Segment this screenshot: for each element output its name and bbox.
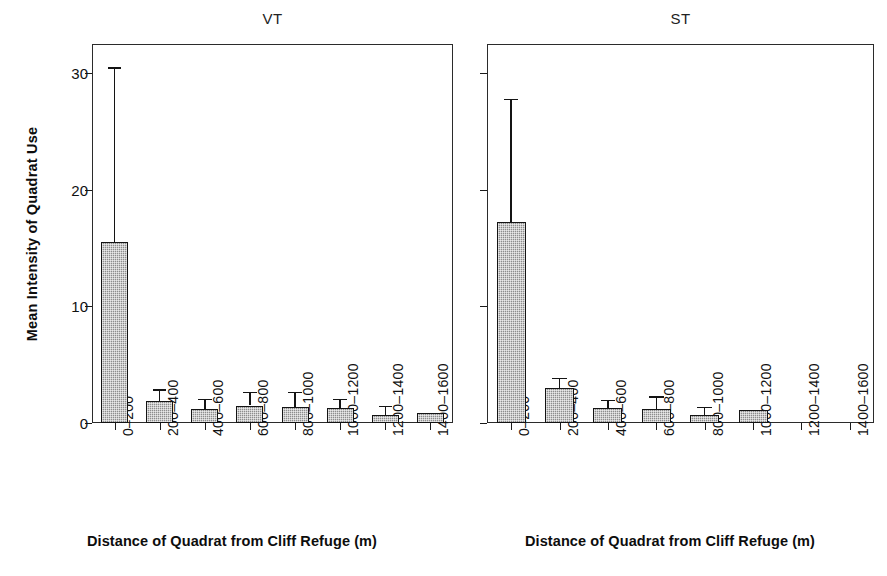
bar-vt-3 <box>236 406 263 423</box>
error-bar-vt-6 <box>379 406 393 415</box>
x-tick-vt-1 <box>160 423 161 430</box>
y-tick-label-30: 30 <box>71 65 88 82</box>
x-tick-label-vt-2: 400–600 <box>210 379 226 436</box>
error-bar-st-2 <box>601 400 616 408</box>
bar-st-2 <box>593 408 622 423</box>
x-tick-label-vt-7: 1400–1600 <box>435 363 451 436</box>
error-bar-vt-0 <box>108 67 122 242</box>
error-bar-vt-2 <box>198 399 212 409</box>
x-tick-label-vt-6: 1200–1400 <box>390 363 406 436</box>
x-tick-st-4 <box>705 423 706 430</box>
bar-vt-0 <box>101 242 128 423</box>
y-tick-st-0 <box>480 423 487 424</box>
error-bar-st-3 <box>649 396 664 409</box>
panel-st: ST <box>462 0 887 576</box>
bar-vt-5 <box>327 408 354 423</box>
error-bar-vt-4 <box>288 392 302 407</box>
x-tick-label-st-6: 1200–1400 <box>806 363 822 436</box>
bar-st-5 <box>739 410 768 423</box>
x-tick-st-5 <box>753 423 754 430</box>
x-tick-vt-0 <box>115 423 116 430</box>
error-bar-cap <box>697 407 712 409</box>
y-tick-st-30 <box>480 73 487 74</box>
x-tick-label-st-4: 800–1000 <box>710 371 726 436</box>
x-tick-st-1 <box>560 423 561 430</box>
error-bar-cap <box>153 389 167 391</box>
panel-vt: VT <box>0 0 462 576</box>
y-axis-title: Mean Intensity of Quadrat Use <box>24 109 40 359</box>
error-bar-cap <box>198 399 212 401</box>
error-bar-vt-3 <box>243 392 257 406</box>
bar-vt-1 <box>146 401 173 423</box>
y-tick-st-10 <box>480 306 487 307</box>
x-tick-vt-4 <box>295 423 296 430</box>
error-bar-cap <box>333 399 347 401</box>
x-tick-st-0 <box>511 423 512 430</box>
x-tick-st-3 <box>656 423 657 430</box>
error-bar-cap <box>379 406 393 408</box>
x-tick-st-2 <box>608 423 609 430</box>
x-tick-label-st-5: 1000–1200 <box>758 363 774 436</box>
x-tick-vt-3 <box>250 423 251 430</box>
error-bar-st-0 <box>504 99 519 223</box>
x-tick-vt-2 <box>205 423 206 430</box>
x-tick-st-7 <box>850 423 851 430</box>
error-bar-stem <box>510 99 511 223</box>
y-tick-label-10: 10 <box>71 298 88 315</box>
y-tick-label-0: 0 <box>80 415 88 432</box>
bar-vt-7 <box>417 413 444 423</box>
panel-title-st: ST <box>487 10 874 27</box>
bar-st-3 <box>642 409 671 423</box>
x-tick-label-vt-4: 800–1000 <box>300 371 316 436</box>
bar-st-4 <box>690 415 719 423</box>
figure-root: VT ST Mean Intensity of Quadrat Use 0102… <box>0 0 887 576</box>
error-bar-cap <box>552 378 567 380</box>
x-tick-st-6 <box>801 423 802 430</box>
x-tick-vt-7 <box>430 423 431 430</box>
error-bar-cap <box>601 400 616 402</box>
x-tick-vt-6 <box>385 423 386 430</box>
x-axis-title-st: Distance of Quadrat from Cliff Refuge (m… <box>460 533 880 549</box>
x-tick-label-st-7: 1400–1600 <box>855 363 871 436</box>
error-bar-cap <box>243 392 257 394</box>
bar-vt-6 <box>372 415 399 423</box>
error-bar-vt-5 <box>333 399 347 408</box>
error-bar-stem <box>159 389 160 401</box>
x-tick-label-vt-5: 1000–1200 <box>345 363 361 436</box>
x-tick-label-st-3: 600–800 <box>661 379 677 436</box>
error-bar-cap <box>288 392 302 394</box>
error-bar-stem <box>656 396 657 409</box>
error-bar-cap <box>504 99 519 101</box>
bar-st-0 <box>497 222 526 423</box>
bar-st-1 <box>545 388 574 423</box>
y-tick-label-20: 20 <box>71 181 88 198</box>
error-bar-cap <box>108 67 122 69</box>
error-bar-vt-1 <box>153 389 167 401</box>
x-axis-title-vt: Distance of Quadrat from Cliff Refuge (m… <box>22 533 442 549</box>
error-bar-stem <box>294 392 295 407</box>
panel-title-vt: VT <box>92 10 453 27</box>
error-bar-stem <box>249 392 250 406</box>
error-bar-st-1 <box>552 378 567 388</box>
bar-vt-4 <box>282 407 309 423</box>
error-bar-stem <box>114 67 115 242</box>
y-tick-st-20 <box>480 190 487 191</box>
x-tick-vt-5 <box>340 423 341 430</box>
error-bar-st-4 <box>697 407 712 415</box>
error-bar-cap <box>649 396 664 398</box>
bar-vt-2 <box>191 409 218 423</box>
